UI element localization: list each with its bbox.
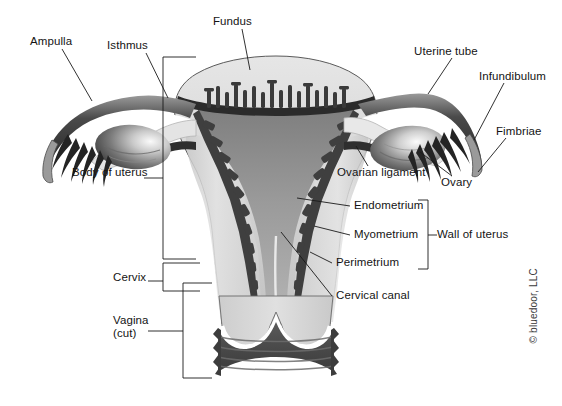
leader-isthmus	[146, 53, 168, 98]
leader-uterine-tube	[428, 58, 452, 94]
copyright-notice: © bluedoor, LLC	[528, 268, 539, 343]
label-perimetrium: Perimetrium	[336, 256, 399, 269]
label-myometrium: Myometrium	[354, 228, 418, 241]
anatomy-illustration	[0, 0, 562, 406]
vagina-cut-edge-left	[213, 328, 221, 376]
label-isthmus: Isthmus	[107, 39, 148, 52]
label-uterine-tube: Uterine tube	[414, 45, 478, 58]
vagina-cut-edge-right	[331, 328, 339, 376]
label-ovarian-ligament: Ovarian ligament	[337, 166, 426, 179]
label-ovary: Ovary	[441, 176, 472, 189]
label-infundibulum: Infundibulum	[479, 70, 546, 83]
label-ampulla: Ampulla	[30, 35, 72, 48]
label-wall-of-uterus: Wall of uterus	[437, 228, 508, 241]
label-fimbriae: Fimbriae	[496, 125, 542, 138]
label-cervix: Cervix	[113, 271, 146, 284]
anatomy-diagram	[0, 0, 562, 406]
leader-ampulla	[62, 49, 92, 101]
label-endometrium: Endometrium	[354, 199, 424, 212]
bracket-cervix	[163, 263, 200, 291]
label-body-of-uterus: Body of uterus	[72, 166, 148, 179]
label-cervical-canal: Cervical canal	[336, 289, 410, 302]
bracket-vagina	[183, 283, 212, 378]
leader-fimbriae	[478, 138, 506, 172]
label-vagina-cut: (cut)	[113, 327, 137, 340]
label-fundus: Fundus	[213, 15, 252, 28]
label-vagina: Vagina	[113, 314, 149, 327]
